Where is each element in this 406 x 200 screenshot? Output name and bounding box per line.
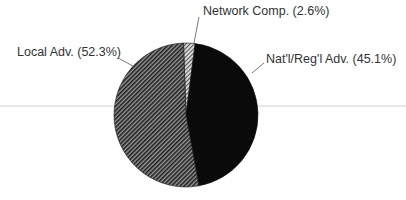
leader-natl-regl-adv — [252, 63, 264, 73]
pie-slices — [114, 43, 258, 187]
leader-network-comp — [194, 17, 199, 43]
label-natl-regl-adv: Nat'l/Reg'l Adv. (45.1%) — [266, 52, 396, 66]
label-network-comp: Network Comp. (2.6%) — [203, 4, 329, 18]
label-local-adv: Local Adv. (52.3%) — [17, 45, 121, 59]
leader-local-adv — [118, 58, 133, 66]
slice-natl-regl-adv — [186, 44, 258, 186]
pie-chart — [0, 0, 406, 200]
